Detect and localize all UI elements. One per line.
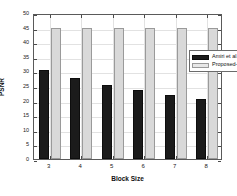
y-tick-mark — [218, 73, 221, 74]
x-tick-label: 6 — [142, 163, 145, 169]
y-tick-mark — [34, 117, 37, 118]
bar-amiri-et-al-7 — [165, 95, 175, 159]
y-tick-label: 50 — [23, 11, 29, 17]
x-tick-mark — [207, 15, 208, 18]
y-tick-mark — [34, 73, 37, 74]
y-tick-label: 5 — [26, 143, 29, 149]
y-tick-label: 25 — [23, 84, 29, 90]
y-tick-mark — [218, 88, 221, 89]
x-tick-mark — [144, 15, 145, 18]
y-tick-label: 45 — [23, 26, 29, 32]
y-tick-mark — [218, 132, 221, 133]
x-tick-mark — [176, 15, 177, 18]
gridline-horizontal — [34, 117, 221, 118]
x-tick-label: 4 — [79, 163, 82, 169]
bar-proposed-s-dwf-8 — [208, 28, 218, 159]
x-tick-mark — [81, 15, 82, 18]
bar-proposed-s-dwf-3 — [51, 28, 61, 159]
x-tick-label: 3 — [47, 163, 50, 169]
y-tick-mark — [34, 88, 37, 89]
bar-proposed-s-dwf-7 — [177, 28, 187, 159]
y-tick-mark — [34, 132, 37, 133]
psnr-bar-chart-figure: PSNR 05101520253035404550 Amiri et al. P… — [0, 0, 237, 196]
y-tick-label: 0 — [26, 157, 29, 163]
bar-amiri-et-al-8 — [196, 99, 206, 159]
x-tick-mark — [50, 15, 51, 18]
y-tick-mark — [218, 103, 221, 104]
gridline-horizontal — [34, 132, 221, 133]
y-tick-mark — [218, 30, 221, 31]
y-tick-label: 15 — [23, 113, 29, 119]
gridline-horizontal — [34, 44, 221, 45]
bar-proposed-s-dwf-5 — [114, 28, 124, 159]
y-tick-mark — [34, 103, 37, 104]
x-tick-label: 8 — [205, 163, 208, 169]
legend-swatch-amiri — [192, 55, 209, 60]
x-tick-label: 5 — [110, 163, 113, 169]
y-tick-mark — [218, 161, 221, 162]
bar-proposed-s-dwf-4 — [82, 28, 92, 159]
y-tick-mark — [218, 15, 221, 16]
y-tick-label: 20 — [23, 99, 29, 105]
y-tick-mark — [34, 59, 37, 60]
x-tick-label: 7 — [173, 163, 176, 169]
y-tick-label: 40 — [23, 40, 29, 46]
bar-amiri-et-al-6 — [133, 90, 143, 159]
bar-amiri-et-al-4 — [70, 78, 80, 159]
y-tick-mark — [34, 15, 37, 16]
bar-amiri-et-al-5 — [102, 85, 112, 159]
plot-area: Amiri et al. Proposed-S-DWF — [33, 14, 222, 160]
legend-swatch-proposed — [192, 63, 209, 68]
legend-label-amiri: Amiri et al. — [212, 54, 237, 60]
bar-amiri-et-al-3 — [39, 70, 49, 159]
gridline-horizontal — [34, 73, 221, 74]
chart-legend: Amiri et al. Proposed-S-DWF — [189, 50, 237, 72]
gridline-horizontal — [34, 30, 221, 31]
y-tick-mark — [34, 44, 37, 45]
legend-item-amiri: Amiri et al. — [192, 53, 237, 61]
y-tick-mark — [218, 146, 221, 147]
y-tick-label: 35 — [23, 55, 29, 61]
y-tick-label: 10 — [23, 128, 29, 134]
gridline-horizontal — [34, 88, 221, 89]
x-axis-tick-labels: 345678 — [33, 163, 222, 173]
y-tick-mark — [34, 161, 37, 162]
y-tick-mark — [34, 146, 37, 147]
legend-label-proposed: Proposed-S-DWF — [212, 62, 237, 68]
y-tick-mark — [218, 117, 221, 118]
legend-item-proposed: Proposed-S-DWF — [192, 61, 237, 69]
y-axis-tick-labels: 05101520253035404550 — [0, 14, 31, 160]
x-tick-mark — [113, 15, 114, 18]
y-tick-mark — [218, 44, 221, 45]
y-tick-label: 30 — [23, 70, 29, 76]
gridline-horizontal — [34, 103, 221, 104]
bar-proposed-s-dwf-6 — [145, 28, 155, 159]
y-tick-mark — [34, 30, 37, 31]
gridline-horizontal — [34, 146, 221, 147]
x-axis-title: Block Size — [33, 176, 222, 183]
gridlines — [34, 15, 221, 159]
